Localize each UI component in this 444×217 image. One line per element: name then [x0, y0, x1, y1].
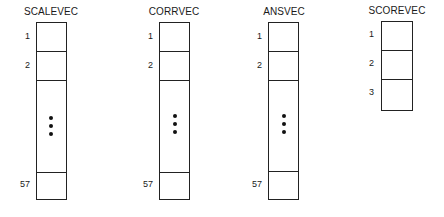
index-label: 2 [133, 60, 153, 70]
ellipsis-dot [49, 124, 53, 128]
index-label: 2 [242, 60, 262, 70]
ellipsis-dot [282, 114, 286, 118]
cell-divider [382, 50, 412, 51]
vector-box [381, 21, 413, 111]
index-label: 1 [242, 31, 262, 41]
index-label: 3 [354, 87, 374, 97]
ellipsis-dot [282, 122, 286, 126]
cell-divider [160, 51, 189, 52]
ellipsis-dot [49, 132, 53, 136]
vector-box [159, 22, 190, 200]
ellipsis-dot [282, 130, 286, 134]
index-label: 2 [354, 58, 374, 68]
ellipsis-dot [173, 114, 177, 118]
cell-divider [269, 171, 298, 172]
index-label: 1 [133, 31, 153, 41]
cell-divider [269, 80, 298, 81]
cell-divider [160, 80, 189, 81]
vector-box [36, 22, 67, 200]
cell-divider [37, 51, 66, 52]
cell-divider [160, 172, 189, 173]
cell-divider [269, 51, 298, 52]
index-label: 1 [354, 29, 374, 39]
cell-divider [37, 172, 66, 173]
cell-divider [37, 80, 66, 81]
index-label: 1 [10, 31, 30, 41]
index-label: 57 [242, 179, 262, 189]
vector-box [268, 22, 299, 200]
index-label: 2 [10, 60, 30, 70]
cell-divider [382, 79, 412, 80]
vector-title: CORRVEC [149, 6, 200, 17]
ellipsis-dot [173, 122, 177, 126]
ellipsis-dot [49, 116, 53, 120]
ellipsis-dot [173, 130, 177, 134]
index-label: 57 [133, 179, 153, 189]
index-label: 57 [10, 179, 30, 189]
vector-title: SCOREVEC [369, 5, 426, 16]
vector-title: ANSVEC [263, 6, 305, 17]
vector-title: SCALEVEC [24, 6, 78, 17]
